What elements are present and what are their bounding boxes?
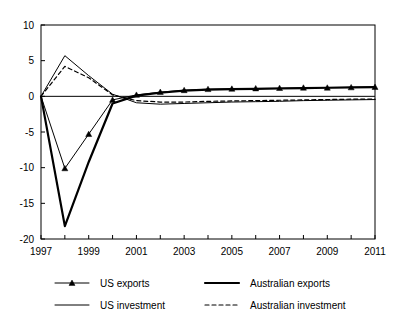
- x-tick-label: 2001: [125, 246, 148, 257]
- chart-legend: US exportsAustralian exportsUS investmen…: [55, 278, 346, 311]
- y-axis-tickmarks: [41, 25, 45, 239]
- legend-label-3: Australian investment: [250, 300, 346, 311]
- y-tick-label: -5: [25, 127, 34, 138]
- y-axis-tick-labels: 1050-5-10-15-20: [20, 20, 35, 245]
- series-line-1: [41, 87, 375, 226]
- y-tick-label: -15: [20, 198, 35, 209]
- legend-label-1: Australian exports: [250, 278, 330, 289]
- legend-label-2: US investment: [100, 300, 165, 311]
- y-tick-label: -20: [20, 234, 35, 245]
- series-line-2: [41, 56, 375, 105]
- chart-figure: 1050-5-10-15-20 199719992001200320052007…: [0, 0, 396, 319]
- legend-label-0: US exports: [100, 278, 149, 289]
- y-tick-label: 5: [28, 55, 34, 66]
- x-tick-label: 2007: [268, 246, 291, 257]
- y-tick-label: 0: [28, 91, 34, 102]
- data-series-group: [41, 56, 378, 226]
- line-chart: 1050-5-10-15-20 199719992001200320052007…: [0, 0, 396, 319]
- x-tick-label: 2011: [364, 246, 386, 257]
- x-tick-label: 1999: [78, 246, 101, 257]
- x-tick-label: 2003: [173, 246, 196, 257]
- x-axis-tick-labels: 19971999200120032005200720092011: [30, 246, 386, 257]
- x-tick-label: 1997: [30, 246, 53, 257]
- x-tick-label: 2005: [221, 246, 244, 257]
- plot-frame: [41, 25, 375, 239]
- x-tick-label: 2009: [316, 246, 339, 257]
- y-tick-label: 10: [23, 20, 35, 31]
- y-tick-label: -10: [20, 162, 35, 173]
- x-axis-tickmarks: [41, 235, 375, 239]
